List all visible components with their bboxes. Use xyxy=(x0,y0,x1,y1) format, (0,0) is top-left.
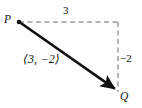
point-Q-label: Q xyxy=(120,91,128,103)
vertical-component-label: −2 xyxy=(120,53,132,64)
vector-diagram-figure: P Q 3 −2 ⟨3, −2⟩ xyxy=(0,0,142,108)
horizontal-component-label: 3 xyxy=(63,5,69,16)
vector-components-label: ⟨3, −2⟩ xyxy=(23,53,60,65)
point-P-label: P xyxy=(4,14,11,26)
point-P-dot xyxy=(17,20,22,25)
